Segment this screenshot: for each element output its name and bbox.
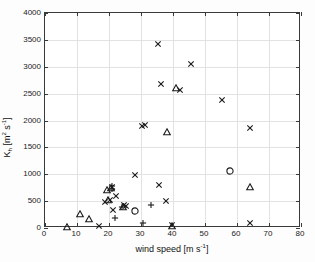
y-axis-title-mid: [m	[2, 136, 12, 149]
gridline-vertical	[141, 13, 142, 226]
tick-mark-y-right	[296, 121, 300, 122]
y-tick-label: 2000	[23, 115, 41, 124]
tick-mark-x	[109, 223, 110, 227]
tick-mark-x-top	[109, 12, 110, 16]
data-point-cross	[218, 96, 225, 103]
tick-mark-x-top	[237, 12, 238, 16]
data-point-cross	[132, 172, 139, 179]
gridline-vertical	[237, 13, 238, 226]
y-axis-title-lead: K	[2, 151, 12, 157]
data-point-triangle	[104, 196, 112, 204]
tick-mark-x-top	[301, 12, 302, 16]
tick-mark-y-right	[296, 67, 300, 68]
data-point-circle	[226, 167, 234, 175]
y-tick-label: 1500	[23, 142, 41, 151]
x-tick-label: 80	[296, 229, 305, 238]
tick-mark-x	[237, 223, 238, 227]
tick-mark-x	[45, 223, 46, 227]
x-tick-label: 70	[264, 229, 273, 238]
data-point-triangle	[163, 128, 171, 136]
data-point-plus	[118, 203, 125, 210]
tick-mark-x	[77, 223, 78, 227]
data-point-cross	[158, 81, 165, 88]
y-tick-label: 2500	[23, 88, 41, 97]
tick-mark-y	[44, 67, 48, 68]
x-tick-label: 40	[168, 229, 177, 238]
y-axis-title: Kh [m2 s-1]	[1, 82, 14, 192]
data-point-cross	[155, 40, 162, 47]
gridline-horizontal	[45, 201, 299, 202]
y-tick-label: 4000	[23, 8, 41, 17]
plot-area	[44, 12, 300, 227]
data-point-cross	[142, 122, 149, 129]
data-point-triangle	[172, 84, 180, 92]
tick-mark-x-top	[173, 12, 174, 16]
gridline-horizontal	[45, 174, 299, 175]
tick-mark-y-right	[296, 13, 300, 14]
data-point-triangle	[76, 210, 84, 218]
data-point-cross	[110, 207, 117, 214]
tick-mark-x	[173, 223, 174, 227]
y-axis-title-mid2: s	[2, 125, 12, 132]
gridline-vertical	[173, 13, 174, 226]
gridline-horizontal	[45, 67, 299, 68]
y-tick-label: 0	[37, 223, 41, 232]
tick-mark-x	[141, 223, 142, 227]
y-axis-title-sup1: 2	[1, 132, 7, 135]
tick-mark-x	[269, 223, 270, 227]
data-point-plus	[109, 186, 116, 193]
y-tick-label: 500	[28, 196, 41, 205]
tick-mark-y-right	[296, 147, 300, 148]
data-point-cross	[113, 192, 120, 199]
x-tick-label: 30	[136, 229, 145, 238]
tick-mark-y	[44, 121, 48, 122]
y-tick-label: 3500	[23, 34, 41, 43]
tick-mark-x-top	[77, 12, 78, 16]
gridline-vertical	[269, 13, 270, 226]
tick-mark-y	[44, 174, 48, 175]
gridline-horizontal	[45, 40, 299, 41]
tick-mark-y-right	[296, 40, 300, 41]
x-axis-title-tail: ]	[206, 244, 209, 254]
gridline-vertical	[77, 13, 78, 226]
y-axis-title-tail: ]	[2, 117, 12, 120]
data-point-plus	[112, 214, 119, 221]
gridline-vertical	[205, 13, 206, 226]
tick-mark-y	[44, 94, 48, 95]
tick-mark-y	[44, 201, 48, 202]
data-point-cross	[96, 223, 103, 230]
data-point-cross	[156, 182, 163, 189]
data-point-cross	[247, 219, 254, 226]
y-axis-title-sup2: -1	[1, 120, 7, 125]
x-tick-label: 50	[200, 229, 209, 238]
data-point-cross	[246, 124, 253, 131]
y-tick-label: 3000	[23, 61, 41, 70]
tick-mark-x	[301, 223, 302, 227]
y-axis-title-sub: h	[7, 148, 13, 151]
x-tick-label: 60	[232, 229, 241, 238]
tick-mark-x-top	[141, 12, 142, 16]
y-tick-label: 1000	[23, 169, 41, 178]
tick-mark-y	[44, 147, 48, 148]
data-point-cross	[187, 60, 194, 67]
scatter-plot-figure: 01020304050607080 0500100015002000250030…	[0, 0, 315, 262]
tick-mark-x	[205, 223, 206, 227]
x-axis-title-text: wind speed [m s	[136, 244, 201, 254]
tick-mark-y	[44, 13, 48, 14]
data-point-triangle	[246, 183, 254, 191]
tick-mark-y-right	[296, 94, 300, 95]
data-point-cross	[162, 197, 169, 204]
tick-mark-y	[44, 40, 48, 41]
gridline-horizontal	[45, 94, 299, 95]
tick-mark-y-right	[296, 201, 300, 202]
data-point-circle	[131, 207, 139, 215]
data-point-triangle	[85, 215, 93, 223]
tick-mark-x-top	[205, 12, 206, 16]
x-tick-label: 20	[104, 229, 113, 238]
gridline-horizontal	[45, 121, 299, 122]
tick-mark-y-right	[296, 174, 300, 175]
tick-mark-x-top	[269, 12, 270, 16]
x-tick-label: 0	[42, 229, 46, 238]
data-point-plus	[147, 201, 154, 208]
x-axis-title: wind speed [m s-1]	[44, 243, 300, 254]
